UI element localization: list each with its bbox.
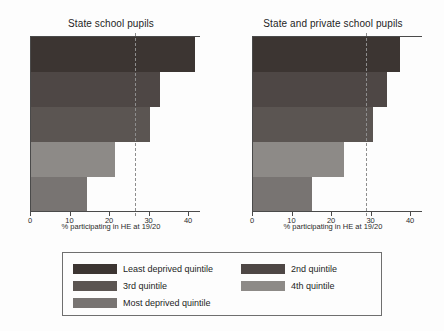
legend-label-2nd-quintile: 2nd quintile: [291, 264, 337, 274]
legend-item-most-deprived-quintile: Most deprived quintile: [73, 298, 241, 308]
x-axis-right: [252, 211, 422, 212]
chart-figure: State school pupils % participating in H…: [0, 0, 444, 331]
bar-3rd-quintile-right: [253, 107, 373, 142]
legend-item-4th-quintile: 4th quintile: [241, 281, 391, 291]
panel-state-school: State school pupils % participating in H…: [0, 0, 222, 250]
panel-title-state-and-private-school: State and private school pupils: [222, 18, 444, 29]
x-axis-left: [30, 211, 200, 212]
legend-swatch-least-deprived-quintile: [73, 264, 117, 274]
x-tick-label-40: 40: [184, 216, 192, 225]
reference-line-right: [366, 33, 367, 216]
bar-4th-quintile-right: [253, 142, 344, 177]
x-tick-label-10: 10: [287, 216, 295, 225]
panel-state-and-private-school: State and private school pupils % partic…: [222, 0, 444, 250]
legend-grid: Least deprived quintile 2nd quintile 3rd…: [73, 260, 373, 311]
x-tick-label-30: 30: [144, 216, 152, 225]
legend-label-4th-quintile: 4th quintile: [291, 281, 335, 291]
x-tick-label-20: 20: [327, 216, 335, 225]
legend-item-3rd-quintile: 3rd quintile: [73, 281, 241, 291]
bar-2nd-quintile-left: [31, 72, 160, 107]
legend-swatch-most-deprived-quintile: [73, 298, 117, 308]
x-tick-label-40: 40: [406, 216, 414, 225]
plot-area-left: [30, 36, 200, 211]
reference-line-left: [135, 33, 136, 216]
x-tick-label-30: 30: [366, 216, 374, 225]
legend-label-least-deprived-quintile: Least deprived quintile: [123, 264, 213, 274]
x-tick-label-20: 20: [105, 216, 113, 225]
panel-container: State school pupils % participating in H…: [0, 0, 444, 250]
bar-least-deprived-right: [253, 37, 400, 72]
bar-3rd-quintile-left: [31, 107, 150, 142]
legend-swatch-2nd-quintile: [241, 264, 285, 274]
legend-item-2nd-quintile: 2nd quintile: [241, 264, 391, 274]
bar-group-right: [253, 37, 422, 211]
plot-area-right: [252, 36, 422, 211]
x-tick-label-0: 0: [250, 216, 254, 225]
legend-label-3rd-quintile: 3rd quintile: [123, 281, 167, 291]
legend-label-most-deprived-quintile: Most deprived quintile: [123, 298, 211, 308]
legend-item-least-deprived-quintile: Least deprived quintile: [73, 264, 241, 274]
bar-most-deprived-right: [253, 177, 312, 212]
x-tick-label-10: 10: [65, 216, 73, 225]
bar-group-left: [31, 37, 200, 211]
bar-least-deprived-left: [31, 37, 195, 72]
legend-swatch-4th-quintile: [241, 281, 285, 291]
chart-legend: Least deprived quintile 2nd quintile 3rd…: [62, 252, 382, 316]
panel-title-state-school: State school pupils: [0, 18, 222, 29]
x-tick-label-0: 0: [28, 216, 32, 225]
legend-swatch-3rd-quintile: [73, 281, 117, 291]
bar-4th-quintile-left: [31, 142, 115, 177]
bar-most-deprived-left: [31, 177, 87, 212]
